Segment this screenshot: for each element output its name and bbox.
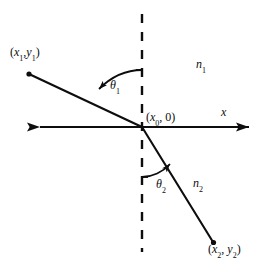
var-y: y [26, 45, 31, 59]
axis-name: x [221, 105, 226, 119]
theta1-arc [99, 70, 142, 89]
comma: , [221, 242, 224, 256]
sub-2b: 2 [233, 251, 237, 260]
comma: , [159, 110, 162, 124]
sub-2: 2 [199, 185, 203, 194]
point-marker-p1 [26, 71, 31, 76]
sub-1: 1 [116, 87, 120, 96]
paren-close: ) [171, 110, 175, 124]
sub-1: 1 [202, 66, 206, 75]
label-point-2: (x2, y2) [208, 243, 241, 258]
refraction-diagram: (x1,y1) (x0, 0) (x2, y2) n1 n2 x θ1 θ2 [0, 0, 271, 266]
label-theta-2: θ2 [156, 178, 166, 193]
incident-ray [29, 74, 142, 127]
sub-2: 2 [217, 251, 221, 260]
label-theta-1: θ1 [110, 79, 120, 94]
sub-1: 1 [19, 54, 23, 63]
paren-close: ) [237, 242, 241, 256]
paren-close: ) [36, 45, 40, 59]
label-x-axis: x [221, 106, 226, 118]
sub-1b: 1 [32, 54, 36, 63]
sub-0: 0 [155, 119, 159, 128]
label-refractive-index-1: n1 [196, 58, 206, 73]
diagram-canvas [0, 0, 271, 266]
var-y: y [227, 242, 232, 256]
label-point-0: (x0, 0) [146, 111, 175, 126]
sub-2: 2 [162, 186, 166, 195]
label-point-1: (x1,y1) [10, 46, 40, 61]
label-refractive-index-2: n2 [193, 177, 203, 192]
